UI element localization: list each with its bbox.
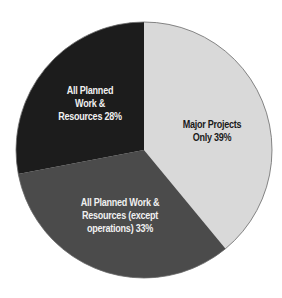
label-line: All Planned: [56, 84, 125, 97]
slice-label-all-planned: All Planned Work & Resources 28%: [56, 84, 125, 123]
slice-label-planned-except-ops: All Planned Work & Resources (except ope…: [74, 196, 165, 235]
label-line: operations) 33%: [74, 222, 165, 235]
label-line: Resources 28%: [56, 110, 125, 123]
pie-chart: [0, 0, 282, 298]
label-line: Major Projects: [181, 118, 243, 131]
slice-label-major-projects: Major Projects Only 39%: [181, 118, 243, 144]
label-line: Resources (except: [74, 209, 165, 222]
label-line: All Planned Work &: [74, 196, 165, 209]
label-line: Only 39%: [181, 131, 243, 144]
label-line: Work &: [56, 97, 125, 110]
